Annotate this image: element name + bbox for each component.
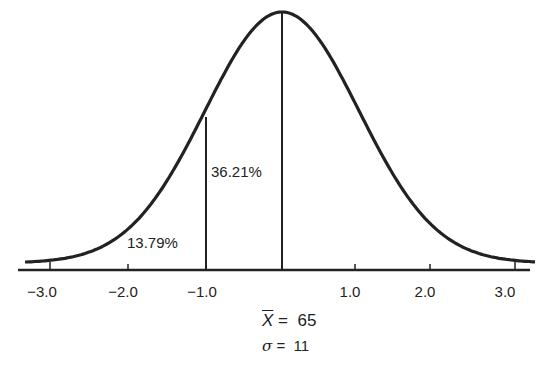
mean-symbol: X [262,311,273,330]
tick-label-minus-2: −2.0 [108,283,138,300]
sigma-statistic: σ = 11 [262,337,309,355]
tick-label-minus-1: −1.0 [187,283,217,300]
mean-statistic: X = 65 [262,311,316,331]
tick-label-3: 3.0 [495,283,516,300]
left-tail-percent: 13.79% [127,234,178,251]
tick-label-1: 1.0 [340,283,361,300]
mean-value: = 65 [278,311,316,330]
tick-label-minus-3: −3.0 [27,283,57,300]
tick-label-2: 2.0 [415,283,436,300]
middle-area-percent: 36.21% [211,163,262,180]
sigma-symbol: σ [262,337,272,355]
sigma-value: = 11 [276,337,309,354]
normal-curve [25,12,535,262]
